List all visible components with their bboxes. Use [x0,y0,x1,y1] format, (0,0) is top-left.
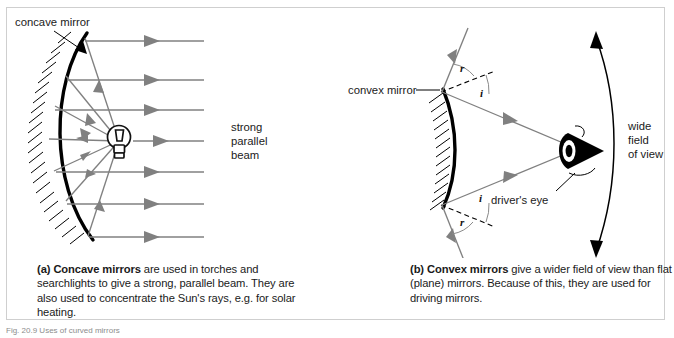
figure-root: concave mirror strong parallel beam (a) … [0,0,674,338]
beam-label-line2: parallel [231,135,267,147]
angle-arc-i-bottom [486,203,489,222]
concave-mirror-label: concave mirror [15,16,90,28]
caption-concave: (a) Concave mirrors are used in torches … [37,262,317,320]
drivers-eye-label: driver's eye [491,194,548,206]
reflected-ray-top [442,92,575,148]
drivers-eye-leader [556,173,575,191]
convex-mirror-diagram: r i i r driver's eye [343,8,666,258]
angle-label-r-top: r [460,62,465,74]
panel-convex-mirror: r i i r driver's eye [343,8,666,319]
caption-convex: (b) Convex mirrors give a wider field of… [410,262,674,305]
field-of-view-arc [590,31,614,258]
angle-label-i-top: i [480,87,484,99]
figure-border-box: concave mirror strong parallel beam (a) … [6,7,665,320]
drivers-eye-icon [559,126,604,175]
concave-mirror-surface [60,33,93,240]
caption-concave-prefix: (a) Concave mirrors [37,263,141,275]
beam-label-line3: beam [231,149,259,161]
fov-label-line2: field [628,134,649,146]
incident-ray-top [442,28,468,92]
beam-label-line1: strong [231,121,262,133]
light-bulb-icon [108,126,131,159]
fov-label-line1: wide [627,120,651,132]
convex-mirror-label: convex mirror [348,84,417,96]
angle-label-i-bottom: i [479,192,483,204]
fov-label-line3: of view [628,148,664,160]
panel-concave-mirror: concave mirror strong parallel beam (a) … [7,8,343,319]
caption-convex-prefix: (b) Convex mirrors [410,263,508,275]
convex-mirror-hatching [429,93,450,210]
figure-number-caption: Fig. 20.9 Uses of curved mirrors [6,326,306,337]
concave-mirror-diagram: concave mirror strong parallel beam [7,8,343,258]
convex-mirror-surface [443,89,455,208]
angle-arc-i-top [486,75,489,94]
angle-label-r-bottom: r [460,216,465,228]
